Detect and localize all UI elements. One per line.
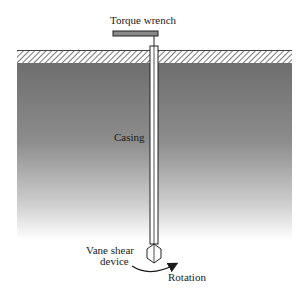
- vane-device-label-line2: device: [100, 255, 129, 267]
- torque-wrench-bar: [113, 31, 158, 36]
- vane-shear-diagram: Torque wrench Casing Vane shear device R…: [0, 0, 305, 300]
- torque-wrench-label: Torque wrench: [110, 14, 177, 26]
- casing-label: Casing: [114, 131, 145, 143]
- rotation-label: Rotation: [168, 271, 206, 283]
